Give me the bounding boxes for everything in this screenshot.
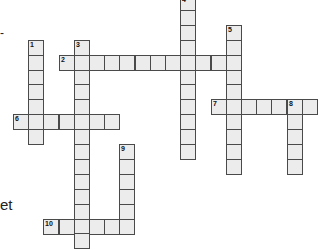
crossword-cell[interactable] [150, 55, 166, 71]
crossword-cell[interactable] [119, 189, 135, 205]
crossword-cell[interactable] [74, 84, 90, 100]
crossword-cell-8[interactable]: 8 [287, 99, 303, 115]
crossword-cell[interactable] [74, 114, 90, 130]
crossword-cell[interactable] [211, 55, 227, 71]
clue-fragment-bottom: et [0, 196, 13, 213]
crossword-cell[interactable] [287, 144, 303, 160]
clue-fragment-top: - [0, 26, 4, 40]
crossword-cell-3[interactable]: 3 [74, 40, 90, 56]
crossword-cell-7[interactable]: 7 [211, 99, 227, 115]
clue-number: 5 [228, 26, 232, 34]
crossword-cell[interactable] [302, 99, 318, 115]
crossword-cell[interactable] [28, 55, 44, 71]
crossword-cell[interactable] [43, 114, 59, 130]
clue-number: 7 [213, 100, 217, 108]
crossword-cell[interactable] [241, 99, 257, 115]
crossword-cell[interactable] [104, 114, 120, 130]
crossword-cell[interactable] [28, 99, 44, 115]
crossword-cell[interactable] [119, 55, 135, 71]
crossword-cell-5[interactable]: 5 [226, 25, 242, 41]
clue-number: 4 [182, 0, 186, 4]
crossword-cell[interactable] [74, 99, 90, 115]
crossword-cell[interactable] [74, 55, 90, 71]
clue-number: 3 [76, 41, 80, 49]
crossword-cell[interactable] [195, 55, 211, 71]
clue-number: 2 [61, 56, 65, 64]
crossword-cell[interactable] [226, 159, 242, 175]
crossword-cell[interactable] [74, 233, 90, 249]
crossword-cell[interactable] [271, 99, 287, 115]
crossword-cell[interactable] [119, 204, 135, 220]
crossword-cell[interactable] [119, 219, 135, 235]
crossword-cell[interactable] [226, 144, 242, 160]
crossword-cell[interactable] [104, 55, 120, 71]
crossword-cell-6[interactable]: 6 [13, 114, 29, 130]
crossword-cell-9[interactable]: 9 [119, 144, 135, 160]
clue-number: 8 [289, 100, 293, 108]
crossword-cell[interactable] [180, 40, 196, 56]
crossword-cell[interactable] [287, 159, 303, 175]
crossword-cell[interactable] [180, 84, 196, 100]
crossword-cell[interactable] [89, 219, 105, 235]
crossword-cell[interactable] [74, 144, 90, 160]
crossword-cell-1[interactable]: 1 [28, 40, 44, 56]
crossword-cell[interactable] [180, 129, 196, 145]
crossword-cell[interactable] [226, 84, 242, 100]
crossword-cell[interactable] [104, 219, 120, 235]
crossword-cell[interactable] [287, 129, 303, 145]
crossword-cell[interactable] [180, 144, 196, 160]
crossword-cell[interactable] [59, 219, 75, 235]
crossword-cell[interactable] [226, 55, 242, 71]
crossword-cell[interactable] [89, 55, 105, 71]
crossword-cell[interactable] [165, 55, 181, 71]
crossword-cell[interactable] [180, 99, 196, 115]
crossword-cell[interactable] [89, 114, 105, 130]
crossword-cell[interactable] [226, 114, 242, 130]
crossword-cell-2[interactable]: 2 [59, 55, 75, 71]
crossword-cell[interactable] [74, 174, 90, 190]
crossword-grid: 12345678910 [0, 0, 327, 250]
clue-number: 1 [30, 41, 34, 49]
crossword-cell[interactable] [180, 55, 196, 71]
crossword-cell[interactable] [180, 114, 196, 130]
crossword-cell[interactable] [74, 129, 90, 145]
clue-number: 6 [15, 115, 19, 123]
crossword-cell[interactable] [119, 159, 135, 175]
crossword-cell[interactable] [226, 129, 242, 145]
crossword-cell[interactable] [226, 99, 242, 115]
crossword-cell[interactable] [119, 174, 135, 190]
crossword-cell[interactable] [287, 114, 303, 130]
crossword-cell[interactable] [74, 189, 90, 205]
crossword-cell[interactable] [226, 40, 242, 56]
crossword-cell[interactable] [180, 25, 196, 41]
crossword-cell[interactable] [28, 114, 44, 130]
clue-number: 10 [45, 220, 53, 228]
clue-number: 9 [121, 145, 125, 153]
crossword-cell[interactable] [74, 204, 90, 220]
crossword-cell[interactable] [59, 114, 75, 130]
crossword-cell-10[interactable]: 10 [43, 219, 59, 235]
crossword-cell[interactable] [28, 129, 44, 145]
crossword-cell[interactable] [256, 99, 272, 115]
crossword-cell[interactable] [28, 84, 44, 100]
crossword-cell[interactable] [180, 10, 196, 26]
crossword-cell[interactable] [135, 55, 151, 71]
crossword-cell[interactable] [74, 159, 90, 175]
